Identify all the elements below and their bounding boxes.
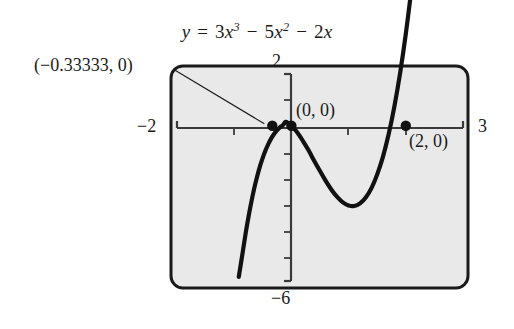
annotation-origin: (0, 0): [296, 100, 335, 121]
axis-label-ymax: 2: [272, 51, 281, 72]
figure-container: y = 3x3 − 5x2 − 2x: [0, 0, 514, 329]
point-root-left: [267, 121, 277, 131]
axis-label-xmax: 3: [478, 116, 487, 137]
axis-label-xmin: −2: [137, 116, 156, 137]
plot-svg: [0, 0, 514, 329]
point-origin: [286, 121, 296, 131]
annotation-root-left: (−0.33333, 0): [34, 55, 133, 76]
point-root-two: [401, 121, 411, 131]
annotation-root-two: (2, 0): [409, 131, 448, 152]
axis-label-ymin: −6: [271, 288, 290, 309]
